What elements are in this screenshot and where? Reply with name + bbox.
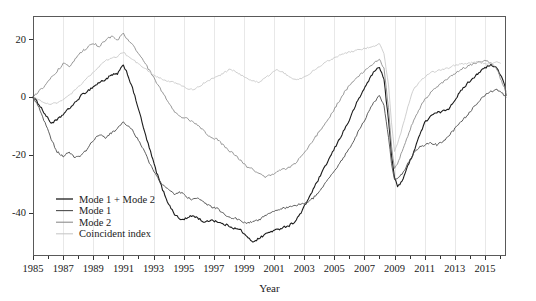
x-tick-label: 1991 <box>113 263 134 274</box>
chart-container: 1985198719891991199319951997199920012003… <box>0 0 536 301</box>
x-axis-title: Year <box>259 282 280 294</box>
legend-label: Coincident index <box>79 228 152 239</box>
y-tick-label: 0 <box>21 91 26 102</box>
x-tick-label: 2003 <box>294 263 315 274</box>
y-axis: 200-20-40 <box>12 34 33 218</box>
x-tick-label: 1985 <box>23 263 44 274</box>
x-tick-label: 1999 <box>233 263 254 274</box>
x-tick-label: 2001 <box>264 263 285 274</box>
x-tick-label: 1993 <box>143 263 164 274</box>
legend-label: Mode 2 <box>79 217 111 228</box>
y-tick-label: -40 <box>12 207 26 218</box>
x-tick-label: 1995 <box>173 263 194 274</box>
legend-label: Mode 1 <box>79 205 111 216</box>
x-tick-label: 1989 <box>83 263 104 274</box>
x-tick-label: 1987 <box>53 263 74 274</box>
x-tick-label: 2013 <box>444 263 465 274</box>
line-chart: 1985198719891991199319951997199920012003… <box>0 0 536 301</box>
x-tick-label: 2009 <box>384 263 405 274</box>
x-tick-label: 2007 <box>354 263 375 274</box>
y-tick-label: -20 <box>12 149 26 160</box>
x-tick-label: 1997 <box>203 263 224 274</box>
y-tick-label: 20 <box>16 34 27 45</box>
x-tick-label: 2011 <box>414 263 435 274</box>
legend-label: Mode 1 + Mode 2 <box>79 194 155 205</box>
x-axis: 1985198719891991199319951997199920012003… <box>23 256 501 274</box>
x-tick-label: 2005 <box>324 263 345 274</box>
x-tick-label: 2015 <box>474 263 495 274</box>
